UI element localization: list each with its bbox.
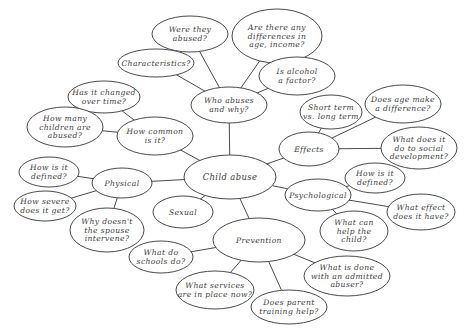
node-label: a difference? (375, 104, 431, 113)
node-label: Sexual (169, 208, 197, 217)
node-psych-defined: How is itdefined? (345, 163, 405, 193)
node-psychological: Psychological (285, 179, 351, 211)
node-label: does it get? (20, 206, 70, 215)
node-label: and why? (209, 105, 249, 114)
node-label: a factor? (278, 76, 316, 85)
mind-map: Child abuseWho abusesand why?Were theyab… (0, 0, 470, 331)
node-label: age, income? (249, 40, 305, 49)
node-parent-training: Does parenttraining help? (251, 290, 327, 324)
node-admitted-abuser: What is donewith an admittedabuser? (304, 256, 390, 296)
node-schools: What doschools do? (129, 241, 193, 273)
node-label: Child abuse (203, 172, 258, 182)
node-differences: Are there anydifferences inage, income? (232, 9, 322, 63)
node-label: defined? (357, 178, 394, 187)
node-label: development? (390, 152, 449, 161)
node-label: is it? (145, 136, 166, 145)
node-label: does it have? (393, 212, 449, 221)
node-label: over time? (82, 97, 127, 106)
node-help-child: What canhelp thechild? (320, 211, 388, 251)
node-spouse-intervene: Why doesn'tthe spouseintervene? (70, 208, 144, 252)
node-short-long-term: Short termvs. long term (300, 95, 362, 129)
node-label: training help? (259, 307, 319, 316)
node-prevention: Prevention (213, 218, 305, 262)
node-were-they-abused: Were theyabused? (152, 16, 228, 52)
node-label: child? (341, 235, 367, 244)
node-label: abuser? (330, 280, 364, 289)
node-child-abuse: Child abuse (184, 155, 276, 199)
node-label: Physical (103, 179, 139, 188)
node-label: schools do? (137, 257, 186, 266)
node-social-development: What does itdo to socialdevelopment? (381, 127, 457, 169)
node-label: Psychological (288, 191, 347, 200)
node-label: vs. long term (303, 112, 359, 121)
node-age-difference: Does age makea difference? (365, 85, 441, 123)
node-label: Characteristics? (121, 59, 191, 68)
node-label: Effects (293, 145, 324, 154)
node-how-many-children: How manychildren areabused? (27, 107, 103, 147)
node-what-effect: What effectdoes it have? (387, 194, 455, 230)
node-how-common: How commonis it? (117, 117, 193, 155)
node-physical-defined: How is itdefined? (19, 157, 79, 187)
nodes-layer: Child abuseWho abusesand why?Were theyab… (14, 9, 457, 324)
node-how-severe: How severedoes it get? (14, 191, 76, 221)
node-label: are in place now? (178, 290, 253, 299)
node-physical: Physical (92, 168, 152, 198)
node-label: Prevention (235, 236, 282, 245)
node-sexual: Sexual (153, 196, 213, 228)
node-label: abused? (48, 131, 83, 140)
node-alcohol: Is alcohola factor? (259, 57, 335, 95)
node-label: intervene? (85, 234, 130, 243)
node-label: abused? (173, 34, 208, 43)
node-services: What servicesare in place now? (176, 271, 254, 309)
node-characteristics: Characteristics? (118, 49, 194, 77)
node-label: defined? (31, 172, 68, 181)
node-effects: Effects (279, 132, 339, 166)
node-who-abuses: Who abusesand why? (191, 87, 267, 123)
